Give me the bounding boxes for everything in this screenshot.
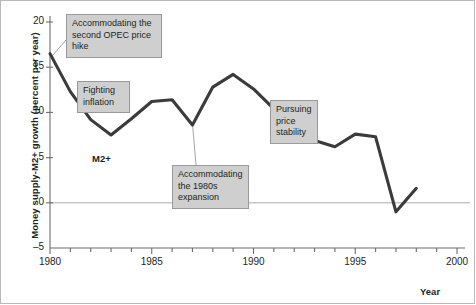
annotation-1980s-expansion: Accommodating the 1980s expansion: [172, 165, 249, 209]
y-axis-title: Money supply-M2+ growth (percent per yea…: [29, 21, 40, 251]
x-tick-label: 1985: [127, 256, 177, 267]
annotation-opec-price-hike: Accommodating the second OPEC price hike: [66, 14, 162, 58]
annotation-fighting-inflation: Fighting inflation: [77, 81, 130, 113]
x-tick-label: 1990: [229, 256, 279, 267]
x-tick-label: 2000: [432, 256, 476, 267]
x-tick-label: 1980: [25, 256, 75, 267]
annotation-price-stability: Pursuing price stability: [270, 100, 318, 144]
chart-figure: –505101520 19801985199019952000 Money su…: [0, 0, 476, 305]
series-label-m2plus: M2+: [92, 153, 111, 164]
x-tick-label: 1995: [330, 256, 380, 267]
x-axis-title: Year: [420, 286, 440, 297]
